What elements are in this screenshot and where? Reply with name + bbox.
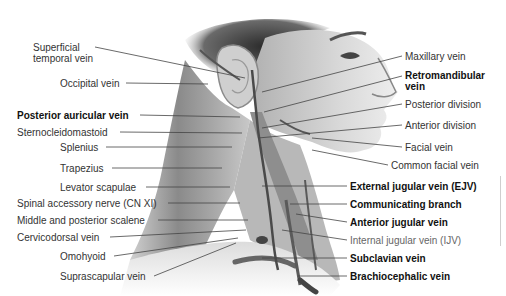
label-brachiocephalic-vein: Brachiocephalic vein xyxy=(350,271,450,282)
label-line: Superficial xyxy=(33,42,93,53)
label-line: Retromandibular xyxy=(405,70,485,81)
label-cervicodorsal-vein: Cervicodorsal vein xyxy=(17,232,99,243)
label-communicating-branch: Communicating branch xyxy=(350,199,462,210)
label-anterior-division: Anterior division xyxy=(405,120,476,131)
label-retromandibular-vein: Retromandibular vein xyxy=(405,70,485,92)
label-facial-vein: Facial vein xyxy=(405,142,453,153)
label-omohyoid: Omohyoid xyxy=(60,251,106,262)
label-line: vein xyxy=(405,81,485,92)
label-middle-posterior-scalene: Middle and posterior scalene xyxy=(17,215,145,226)
label-levator-scapulae: Levator scapulae xyxy=(60,182,136,193)
label-maxillary-vein: Maxillary vein xyxy=(405,51,466,62)
cervicodorsal-junction xyxy=(256,236,268,244)
label-external-jugular-vein: External jugular vein (EJV) xyxy=(350,181,477,192)
label-superficial-temporal-vein: Superficial temporal vein xyxy=(33,42,93,64)
label-line: temporal vein xyxy=(33,53,93,64)
label-subclavian-vein: Subclavian vein xyxy=(350,253,426,264)
label-spinal-accessory-nerve: Spinal accessory nerve (CN XI) xyxy=(17,198,157,209)
label-sternocleidomastoid: Sternocleidomastoid xyxy=(17,127,108,138)
anatomy-figure: Superficial temporal vein Occipital vein… xyxy=(0,0,506,296)
label-suprascapular-vein: Suprascapular vein xyxy=(60,271,146,282)
label-splenius: Splenius xyxy=(60,142,98,153)
label-anterior-jugular-vein: Anterior jugular vein xyxy=(350,217,448,228)
label-occipital-vein: Occipital vein xyxy=(60,78,119,89)
label-posterior-auricular-vein: Posterior auricular vein xyxy=(17,110,129,121)
label-posterior-division: Posterior division xyxy=(405,99,481,110)
page-edge-divider xyxy=(500,176,501,246)
label-internal-jugular-vein: Internal jugular vein (IJV) xyxy=(350,235,461,246)
label-common-facial-vein: Common facial vein xyxy=(391,160,479,171)
label-trapezius: Trapezius xyxy=(60,163,104,174)
